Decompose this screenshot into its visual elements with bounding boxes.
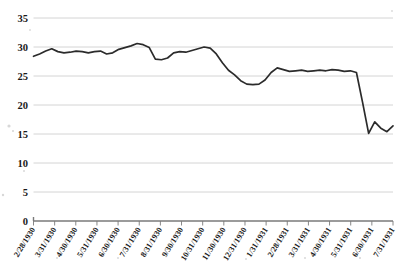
gridlines [34, 18, 394, 192]
series-line-value [34, 44, 394, 134]
x-axis [34, 217, 394, 226]
scan-artifacts [2, 10, 393, 260]
scan-speck [56, 257, 58, 259]
y-axis-tick-labels: 05101520253035 [18, 13, 29, 227]
scan-speck [184, 256, 186, 258]
scan-speck [7, 124, 10, 127]
scan-speck [304, 257, 306, 259]
scan-speck [245, 258, 247, 260]
scan-speck [359, 257, 361, 259]
y-tick-label: 20 [18, 100, 29, 111]
scan-speck [29, 29, 31, 31]
x-axis-tick-labels: 2/28/19303/31/19304/30/19305/31/19306/30… [12, 226, 397, 262]
y-tick-label: 35 [18, 13, 29, 24]
y-tick-label: 25 [18, 71, 29, 82]
scan-speck [12, 130, 14, 132]
data-series [34, 44, 394, 134]
y-tick-label: 0 [23, 216, 28, 227]
scan-speck [117, 257, 119, 259]
chart-canvas: 05101520253035 2/28/19303/31/19304/30/19… [0, 0, 399, 278]
y-tick-label: 15 [18, 129, 29, 140]
y-tick-label: 10 [18, 158, 29, 169]
scan-speck [391, 10, 393, 12]
y-tick-label: 5 [23, 187, 28, 198]
scan-speck [2, 194, 4, 196]
scan-speck [23, 170, 25, 172]
y-tick-label: 30 [18, 42, 29, 53]
line-chart: 05101520253035 2/28/19303/31/19304/30/19… [0, 0, 399, 278]
